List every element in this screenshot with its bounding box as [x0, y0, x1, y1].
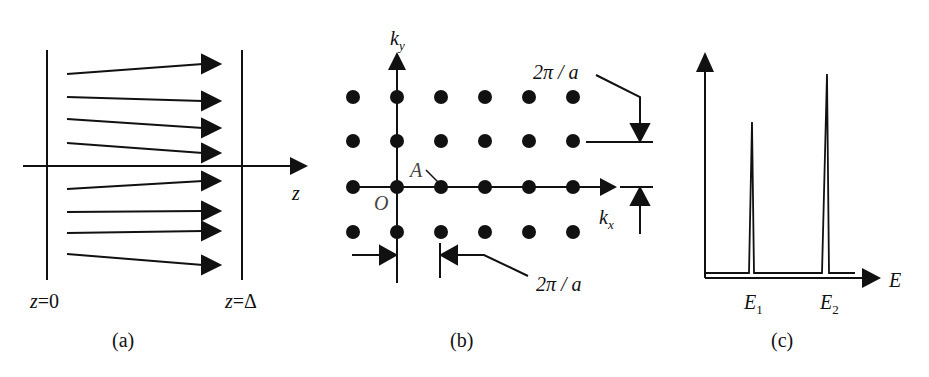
panel-b-diagram: [346, 52, 653, 283]
vertical-spacing-dimension: [586, 75, 653, 234]
ky-arrowhead-icon: [388, 52, 406, 70]
label-vertical-spacing: 2π / a: [533, 62, 579, 82]
label-horizontal-spacing: 2π / a: [536, 274, 582, 294]
label-point-a: A: [410, 160, 422, 180]
label-kx: kx: [599, 207, 614, 227]
y-axis-arrowhead-icon: [696, 52, 714, 72]
z-axis-arrowhead-icon: [290, 157, 308, 175]
caption-b: (b): [450, 330, 473, 350]
panel-c-chart: [696, 52, 881, 288]
caption-a: (a): [112, 330, 134, 350]
label-peak-e2: E2: [820, 292, 839, 316]
label-z-axis: z: [292, 183, 300, 203]
caption-c: (c): [771, 330, 793, 350]
e-axis-arrowhead-icon: [862, 268, 881, 288]
label-z-zero: zz=0=0: [30, 291, 59, 311]
spectrum-line: [705, 74, 855, 273]
panel-a-diagram: [23, 50, 308, 280]
ray-arrows: [67, 55, 220, 274]
point-a-leader: [426, 170, 438, 182]
label-e-axis: E: [889, 270, 901, 290]
figure-canvas: [0, 0, 929, 377]
horizontal-spacing-dimension: [352, 243, 528, 278]
kx-arrowhead-icon: [600, 178, 617, 196]
label-ky: ky: [390, 28, 405, 48]
label-peak-e1: E1: [744, 292, 763, 316]
label-origin: O: [374, 193, 388, 213]
reciprocal-lattice-points: [346, 90, 580, 239]
label-z-delta: z=Δ: [225, 291, 257, 311]
